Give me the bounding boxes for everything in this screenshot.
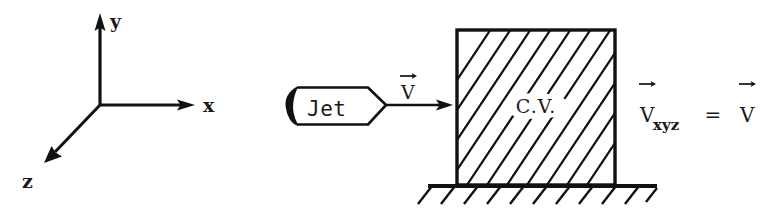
equation-operator: = [705, 103, 722, 127]
figure-background [0, 0, 773, 218]
jet-label: Jet [307, 97, 346, 121]
control-volume-label: C.V. [516, 95, 556, 117]
x-axis-label: x [203, 94, 215, 116]
z-axis-label: z [22, 170, 33, 192]
equation-lhs-subscript: xyz [653, 116, 680, 134]
figure-canvas: y x z Jet [0, 0, 773, 218]
y-axis-label: y [109, 10, 122, 32]
jet-control-volume-figure: y x z Jet [0, 0, 773, 218]
equation-rhs-variable: V [739, 103, 755, 127]
velocity-symbol-V: V [400, 81, 415, 103]
